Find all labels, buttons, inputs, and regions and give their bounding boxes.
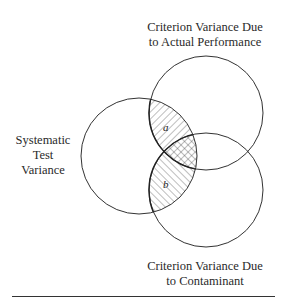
label-line: to Contaminant bbox=[140, 274, 270, 289]
label-line: to Actual Performance bbox=[140, 35, 270, 50]
label-line: Criterion Variance Due bbox=[140, 20, 270, 35]
region-b-label: b bbox=[163, 178, 169, 190]
label-line: Systematic bbox=[8, 133, 78, 148]
region-a-label: a bbox=[163, 121, 169, 133]
label-line: Variance bbox=[8, 163, 78, 178]
bottom-rule-divider bbox=[12, 296, 275, 297]
label-systematic-test: Systematic Test Variance bbox=[8, 133, 78, 178]
label-line: Criterion Variance Due bbox=[140, 259, 270, 274]
label-contaminant: Criterion Variance Due to Contaminant bbox=[140, 259, 270, 289]
label-actual-performance: Criterion Variance Due to Actual Perform… bbox=[140, 20, 270, 50]
label-line: Test bbox=[8, 148, 78, 163]
